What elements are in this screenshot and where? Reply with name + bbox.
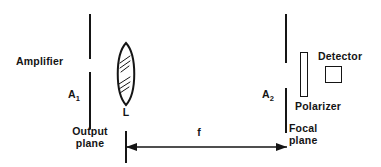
- focal-length-label: f: [191, 126, 207, 138]
- lens-body: [118, 43, 135, 105]
- aperture-2-subscript: 2: [270, 94, 274, 103]
- aperture-2-letter: A: [262, 88, 270, 100]
- polarizer-label: Polarizer: [295, 100, 341, 112]
- detector-label: Detector: [318, 50, 362, 62]
- aperture-1-label: A1: [68, 88, 80, 105]
- focal-plane-line-1: Focal: [289, 122, 317, 134]
- optical-setup-diagram: Amplifier A1 Outputplane L f A2 Focalpla…: [0, 0, 381, 167]
- output-plane-line-1: Output: [72, 125, 108, 137]
- focal-length-right-arrowhead: [276, 143, 287, 151]
- aperture-1-letter: A: [68, 88, 76, 100]
- output-plane-label: Outputplane: [50, 125, 130, 149]
- lens-label: L: [116, 106, 136, 118]
- aperture-1-subscript: 1: [76, 94, 80, 103]
- output-plane-line-2: plane: [76, 137, 104, 149]
- focal-plane-label: Focalplane: [289, 122, 317, 146]
- amplifier-label: Amplifier: [16, 55, 63, 67]
- focal-plane-line-2: plane: [289, 134, 317, 146]
- aperture-2-label: A2: [262, 88, 274, 105]
